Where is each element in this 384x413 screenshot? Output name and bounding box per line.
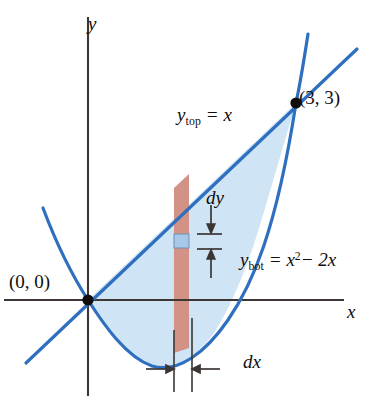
dy-band [174,234,189,248]
y-top-equation-label: ytop = x [177,105,232,127]
y-bot-equation-label: ybot = x2− 2x [240,250,336,272]
origin-point-label: (0, 0) [9,272,50,291]
y-axis-label: y [88,14,96,33]
point-origin-marker [82,294,93,305]
intersection-point-label: (3, 3) [299,88,340,107]
dy-label: dy [206,188,224,207]
x-axis-label: x [347,302,355,321]
y-bot-expression-pre: = x [269,249,295,270]
y-top-expression: = x [206,104,232,125]
y-bot-expression-post: − 2x [301,249,337,270]
dx-label: dx [243,352,261,371]
area-between-curves-figure [0,0,384,413]
y-top-subscript: top [185,115,201,128]
y-bot-subscript: bot [248,260,264,273]
representative-strip [174,174,189,353]
